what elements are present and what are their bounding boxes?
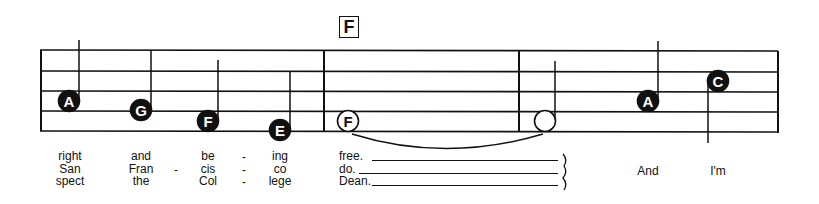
- lyric-hyphen: -: [242, 175, 246, 189]
- note-head: [535, 111, 556, 132]
- note-letter: G: [135, 102, 147, 119]
- note-letter: F: [343, 113, 352, 130]
- lyric-held: free.: [339, 150, 363, 163]
- lyric-syllable: spect: [56, 175, 85, 188]
- lyric-hyphen: -: [174, 163, 178, 177]
- lyric-syllable: lege: [269, 175, 292, 188]
- note-letter: A: [643, 93, 654, 110]
- note-letter: A: [64, 93, 75, 110]
- lyric-pickup: I'm: [710, 165, 726, 178]
- sheet-music: AGFEFAC F rightSanspectandFranthebecisCo…: [0, 0, 819, 204]
- note-letter: C: [713, 73, 724, 90]
- chord-symbol: F: [339, 16, 359, 38]
- lyric-extender: [372, 160, 558, 161]
- lyric-syllable: Col: [199, 175, 217, 188]
- lyric-brace: [563, 154, 566, 190]
- note-letter: F: [203, 113, 212, 130]
- note-letter: E: [275, 122, 285, 139]
- tie: [352, 134, 543, 149]
- lyric-syllable: the: [133, 175, 150, 188]
- note-e: E: [270, 71, 291, 141]
- lyric-extender: [372, 185, 558, 186]
- lyric-held: Dean.: [339, 175, 371, 188]
- note-f: F: [338, 111, 359, 132]
- lyric-extender: [359, 173, 558, 174]
- note-g: G: [131, 50, 152, 121]
- lyric-pickup: And: [637, 165, 658, 178]
